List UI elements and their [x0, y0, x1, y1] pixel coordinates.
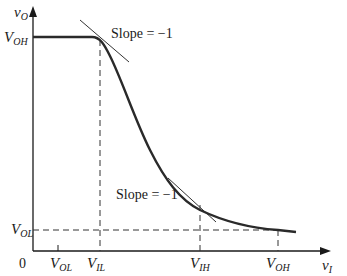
x-axis-arrow-icon — [320, 247, 331, 255]
y-axis-label: vO — [14, 4, 28, 22]
y-axis-arrow-icon — [29, 6, 37, 17]
x-tick-vol: VOL — [50, 255, 72, 273]
vtc-curve — [33, 37, 296, 232]
x-tick-vil: VIL — [87, 255, 106, 273]
x-tick-vih: VIH — [190, 255, 211, 273]
x-axis-label: vI — [322, 257, 333, 275]
slope-annotation-lower: Slope = −1 — [116, 187, 178, 202]
origin-label: 0 — [19, 256, 26, 271]
vtc-diagram: vO vI 0 VOH VOL VOL VIL VIH VOH Slope = … — [0, 0, 347, 276]
slope-annotation-upper: Slope = −1 — [111, 26, 173, 41]
y-tick-vol: VOL — [11, 221, 33, 239]
y-tick-voh: VOH — [4, 29, 28, 47]
x-tick-voh: VOH — [266, 255, 290, 273]
dashed-guides — [33, 40, 278, 251]
